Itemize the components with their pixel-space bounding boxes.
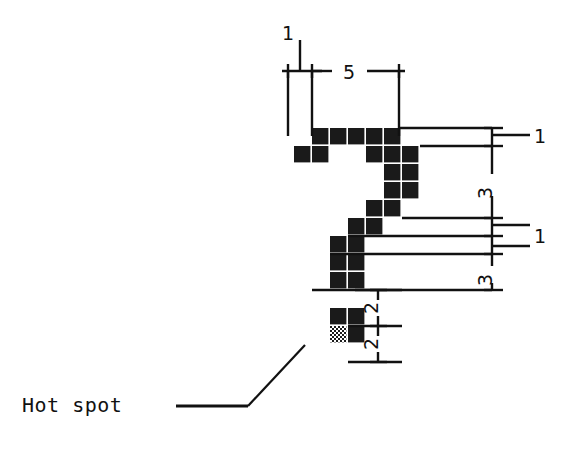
bitmap-pixel	[384, 146, 400, 162]
bitmap-pixel	[330, 272, 346, 288]
dim-label-bottom-first: 2	[360, 302, 382, 314]
bitmap-pixel	[402, 182, 418, 198]
dim-label-top-width: 5	[343, 61, 355, 83]
bitmap-pixel	[294, 146, 310, 162]
dim-label-top-offset: 1	[282, 22, 294, 44]
bitmap-pixel	[348, 236, 364, 252]
bitmap-pixel	[366, 128, 382, 144]
bitmap-pixel	[366, 218, 382, 234]
dim-label-right-first: 1	[534, 125, 546, 147]
bitmap-pixel	[402, 164, 418, 180]
bitmap-pixel	[312, 128, 328, 144]
bitmap-pixel	[366, 146, 382, 162]
bitmap-pixel	[330, 254, 346, 270]
dim-label-right-fourth: 3	[474, 274, 496, 286]
background	[0, 0, 564, 451]
cursor-dimension-diagram: 1 5	[0, 0, 564, 451]
bitmap-pixel	[312, 146, 328, 162]
bitmap-pixel	[384, 164, 400, 180]
dim-label-bottom-second: 2	[360, 338, 382, 350]
bitmap-pixel	[348, 272, 364, 288]
bitmap-pixel	[348, 254, 364, 270]
bitmap-pixel	[348, 218, 364, 234]
hot-spot-pixel	[330, 326, 346, 342]
diagram-canvas: 1 5	[0, 0, 564, 451]
bitmap-pixel	[366, 200, 382, 216]
bitmap-pixel	[348, 128, 364, 144]
bitmap-pixel	[402, 146, 418, 162]
bitmap-pixel	[330, 128, 346, 144]
bitmap-pixel	[384, 182, 400, 198]
bitmap-pixel	[330, 236, 346, 252]
dim-label-right-third: 1	[534, 225, 546, 247]
dim-label-right-second: 3	[474, 187, 496, 199]
hot-spot-label: Hot spot	[22, 393, 122, 417]
bitmap-pixel	[330, 308, 346, 324]
bitmap-pixel	[384, 200, 400, 216]
